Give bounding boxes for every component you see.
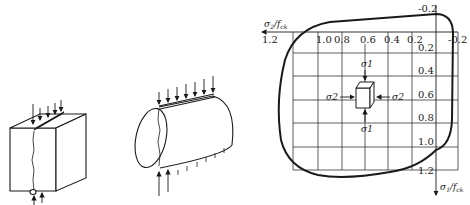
- cube-specimen: [10, 100, 86, 205]
- load-arrows-bottom: [34, 193, 42, 205]
- sigma2-right-label: σ2: [392, 92, 404, 102]
- y-tick-0.4: 0.4: [418, 65, 434, 76]
- x-tick-neg0.2: -0.2: [448, 34, 467, 45]
- x-tick-0.6: 0.6: [360, 34, 376, 45]
- y-tick-1.2: 1.2: [418, 165, 434, 176]
- failure-envelope-chart: 1.2 1.0 0.8 0.6 0.4 0.2 -0.2 -0.2 0.2 0.…: [262, 3, 467, 195]
- x-tick-0.8: 0.8: [334, 34, 350, 45]
- x-tick-1.0: 1.0: [316, 34, 332, 45]
- cylinder-specimen: [130, 76, 233, 196]
- stress-element: [340, 70, 390, 122]
- x-tick-1.2: 1.2: [262, 34, 278, 45]
- y-tick-neg0.2: -0.2: [418, 3, 437, 14]
- figure-canvas: 1.2 1.0 0.8 0.6 0.4 0.2 -0.2 -0.2 0.2 0.…: [0, 0, 470, 205]
- load-arrows-bottom-cyl: [159, 170, 168, 196]
- y-tick-0.6: 0.6: [418, 89, 434, 100]
- sigma2-left-label: σ2: [326, 92, 338, 102]
- y-tick-0.2: 0.2: [418, 42, 434, 53]
- y-tick-1.0: 1.0: [418, 136, 434, 147]
- y-axis-label: σ1/fck: [440, 182, 464, 193]
- y-tick-0.8: 0.8: [418, 112, 434, 123]
- sigma1-bottom-label: σ1: [361, 124, 373, 134]
- x-axis-label: σ2/fck: [264, 19, 288, 30]
- sigma1-top-label: σ1: [361, 59, 373, 69]
- x-tick-0.4: 0.4: [384, 34, 400, 45]
